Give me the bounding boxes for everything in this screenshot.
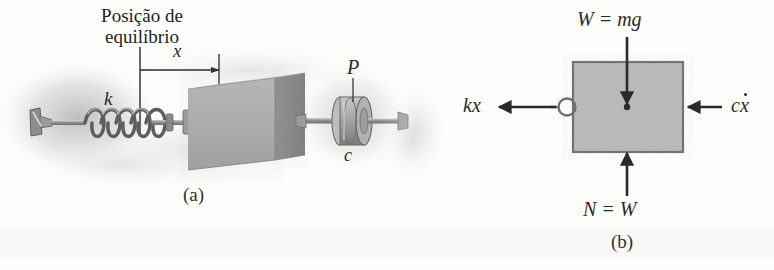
spring-left-rod bbox=[51, 121, 85, 126]
damping-coefficient-label: c bbox=[344, 146, 352, 165]
normal-force-label: N = W bbox=[583, 199, 637, 221]
equilibrium-label-line2: equilíbrio bbox=[105, 26, 179, 47]
physics-figure: Posição de equilíbrio x k P c (a) W = mg… bbox=[0, 0, 774, 270]
weight-force-label: W = mg bbox=[577, 9, 642, 31]
damping-force-label: cx bbox=[731, 95, 749, 117]
panel-b-background-shading bbox=[378, 92, 446, 188]
equilibrium-label-line1: Posição de bbox=[101, 5, 183, 26]
panel-a-caption: (a) bbox=[183, 185, 204, 206]
dashpot-damper bbox=[332, 97, 372, 145]
spring-force-label: kx bbox=[463, 95, 481, 117]
fbd-center-of-mass-dot bbox=[624, 104, 630, 110]
displacement-symbol-label: x bbox=[173, 41, 181, 62]
damping-force-velocity-variable: x bbox=[740, 95, 749, 117]
spring-constant-label: k bbox=[104, 89, 112, 110]
damping-force-coefficient: c bbox=[731, 94, 740, 116]
point-p-label: P bbox=[347, 57, 359, 79]
scan-artifact-band bbox=[0, 228, 774, 258]
equilibrium-position-label: Posição de equilíbrio bbox=[62, 6, 222, 47]
panel-b-caption: (b) bbox=[611, 232, 633, 253]
mass-block bbox=[188, 73, 305, 170]
